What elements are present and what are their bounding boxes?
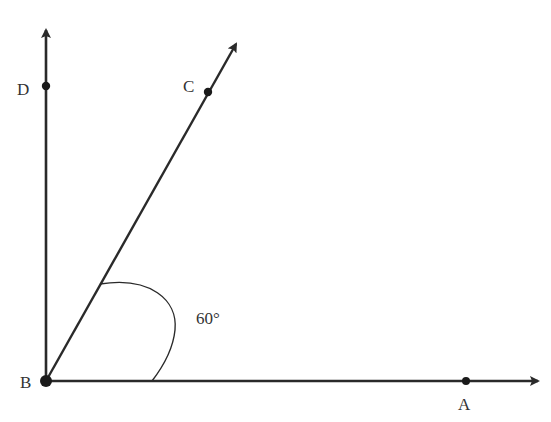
point-b bbox=[40, 375, 52, 387]
geometry-diagram: B A C D 60° bbox=[0, 0, 551, 422]
label-d: D bbox=[17, 80, 29, 99]
point-d bbox=[42, 82, 50, 90]
label-a: A bbox=[458, 395, 471, 414]
label-c: C bbox=[183, 77, 194, 96]
angle-arc bbox=[100, 282, 175, 381]
point-a bbox=[462, 377, 470, 385]
point-c bbox=[204, 88, 212, 96]
angle-label: 60° bbox=[196, 309, 220, 328]
label-b: B bbox=[20, 373, 31, 392]
